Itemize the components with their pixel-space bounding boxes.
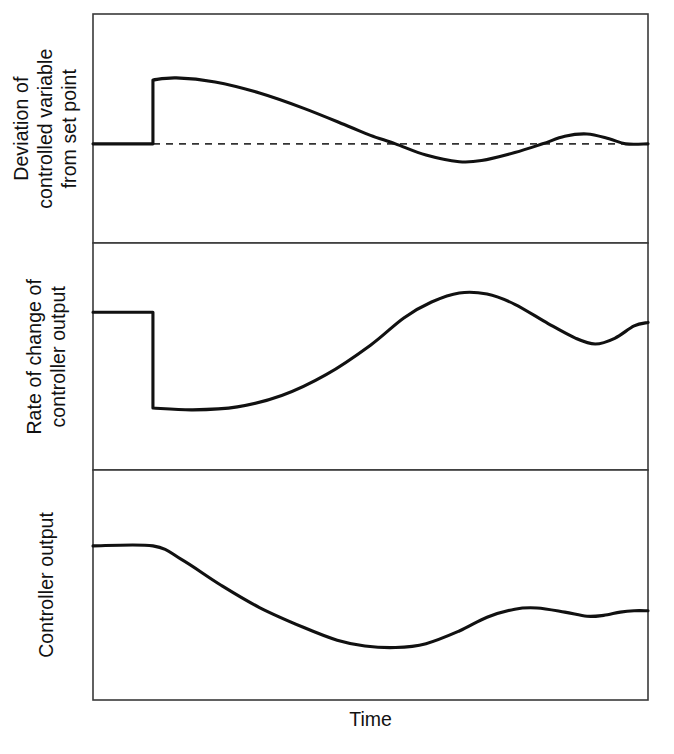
panel-frame-controller-output (93, 470, 648, 700)
panel-frame-deviation (93, 14, 648, 243)
panel-frame-rate-of-change (93, 243, 648, 470)
panel-frames (93, 14, 648, 700)
plot-canvas (0, 0, 674, 754)
figure-root: Deviation of controlled variable from se… (0, 0, 674, 754)
x-axis-label: Time (93, 708, 648, 731)
